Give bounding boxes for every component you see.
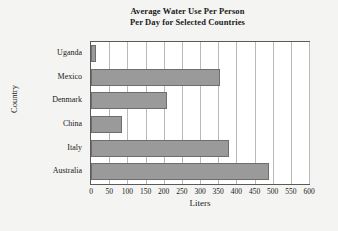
- chart-title-line-2: Per Day for Selected Countries: [80, 17, 295, 28]
- bar-australia[interactable]: [91, 163, 269, 180]
- y-tick-label-italy: Italy: [67, 136, 82, 160]
- y-tick-label-australia: Australia: [53, 159, 82, 183]
- y-axis-tick-labels: UgandaMexicoDenmarkChinaItalyAustralia: [18, 41, 86, 185]
- y-tick-label-uganda: Uganda: [57, 41, 82, 65]
- x-tick-label: 350: [213, 187, 224, 196]
- x-tick-label: 600: [303, 187, 314, 196]
- x-tick-label: 500: [267, 187, 278, 196]
- chart-title-line-1: Average Water Use Per Person: [80, 6, 295, 17]
- x-tick-label: 0: [89, 187, 93, 196]
- y-tick-label-mexico: Mexico: [58, 65, 82, 89]
- bar-mexico[interactable]: [91, 69, 220, 86]
- x-tick-label: 550: [285, 187, 296, 196]
- bar-italy[interactable]: [91, 140, 229, 157]
- x-tick-label: 200: [158, 187, 169, 196]
- bars-layer: [91, 42, 309, 184]
- x-tick-label: 450: [249, 187, 260, 196]
- bar-denmark[interactable]: [91, 92, 167, 109]
- x-tick-label: 250: [176, 187, 187, 196]
- y-tick-label-denmark: Denmark: [52, 88, 82, 112]
- x-axis-tick-labels: 050100150200250300350400450500550600: [90, 187, 310, 198]
- bar-china[interactable]: [91, 116, 122, 133]
- x-tick-label: 400: [231, 187, 242, 196]
- y-tick-label-china: China: [63, 112, 82, 136]
- plot-area: [90, 41, 310, 185]
- chart-figure: Average Water Use Per Person Per Day for…: [0, 0, 338, 231]
- bar-uganda[interactable]: [91, 45, 96, 62]
- y-axis-title: Country: [9, 64, 19, 134]
- x-tick-label: 300: [194, 187, 205, 196]
- x-tick-label: 50: [105, 187, 113, 196]
- x-axis-title: Liters: [90, 198, 310, 208]
- gridline: [309, 42, 310, 184]
- x-tick-label: 150: [140, 187, 151, 196]
- chart-title: Average Water Use Per Person Per Day for…: [80, 6, 295, 28]
- x-tick-label: 100: [122, 187, 133, 196]
